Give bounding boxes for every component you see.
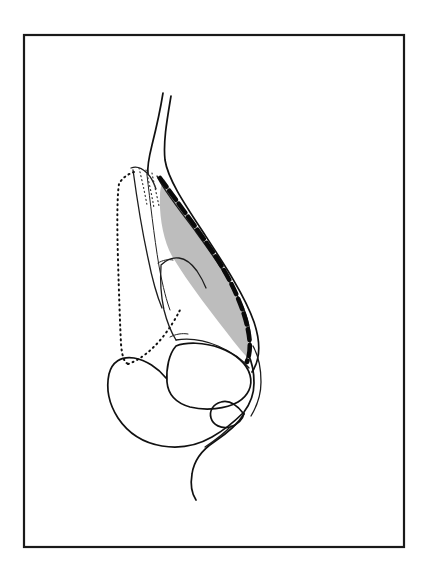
nose-profile-anatomical-illustration: Lateral profile view of nose showing car… [0, 0, 429, 572]
figure-canvas: Lateral profile view of nose showing car… [0, 0, 429, 572]
